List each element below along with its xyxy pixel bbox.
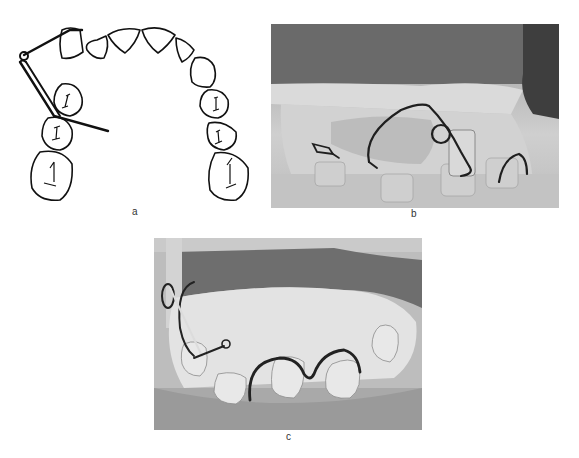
panel-label-a: a [132,206,138,217]
panel-label-b: b [411,208,417,219]
panel-b-photo [271,24,559,208]
panel-c-photo [154,238,422,430]
panel-a-drawing [0,15,262,205]
panel-label-c: c [286,431,291,442]
